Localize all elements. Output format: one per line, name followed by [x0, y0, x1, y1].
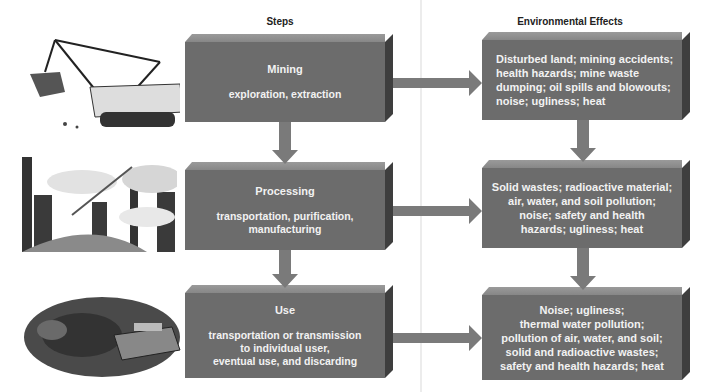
effect-line: pollution of air, water, and soil; — [488, 331, 676, 345]
step-desc: transportation, purification, manufactur… — [191, 210, 379, 236]
effect-box-processing: Solid wastes; radioactive material; air,… — [482, 168, 682, 248]
step-desc-line: transportation or transmission — [191, 329, 379, 342]
step-box-processing: Processing transportation, purification,… — [185, 170, 385, 250]
factory-smokestacks-illustration — [22, 157, 177, 252]
effect-line: thermal water pollution; — [488, 317, 676, 331]
step-desc-line: eventual use, and discarding — [191, 355, 379, 368]
step-title: Processing — [191, 185, 379, 198]
effect-line: Solid wastes; radioactive material; — [488, 180, 676, 194]
arrow-down-icon — [570, 248, 596, 290]
effect-line: health hazards; mine waste — [496, 66, 676, 80]
arrow-right-icon — [393, 198, 483, 224]
step-box-use: Use transportation or transmission to in… — [185, 293, 385, 378]
arrow-right-icon — [393, 325, 483, 351]
effects-header: Environmental Effects — [480, 16, 660, 27]
step-box-mining: Mining exploration, extraction — [185, 42, 385, 122]
arrow-down-icon — [570, 120, 596, 162]
effect-line: dumping; oil spills and blowouts; — [496, 80, 676, 94]
steps-header: Steps — [240, 16, 320, 27]
effect-box-mining: Disturbed land; mining accidents; health… — [482, 40, 682, 120]
effect-line: hazards; ugliness; heat — [488, 222, 676, 236]
effect-line: safety and health hazards; heat — [488, 359, 676, 373]
step-desc-line: to individual user, — [191, 342, 379, 355]
junkyard-illustration — [22, 295, 182, 380]
effect-line: solid and radioactive wastes; — [488, 345, 676, 359]
step-title: Mining — [191, 63, 379, 76]
effect-line: noise; safety and health — [488, 208, 676, 222]
effect-line: air, water, and soil pollution; — [488, 194, 676, 208]
arrow-right-icon — [393, 70, 483, 96]
effect-line: Disturbed land; mining accidents; — [496, 52, 676, 66]
arrow-down-icon — [272, 250, 298, 288]
step-title: Use — [191, 304, 379, 317]
arrow-down-icon — [272, 122, 298, 164]
step-desc: exploration, extraction — [191, 88, 379, 101]
power-shovel-illustration — [15, 32, 180, 132]
effect-line: Noise; ugliness; — [488, 303, 676, 317]
effect-box-use: Noise; ugliness; thermal water pollution… — [482, 295, 682, 380]
effect-line: noise; ugliness; heat — [496, 94, 676, 108]
